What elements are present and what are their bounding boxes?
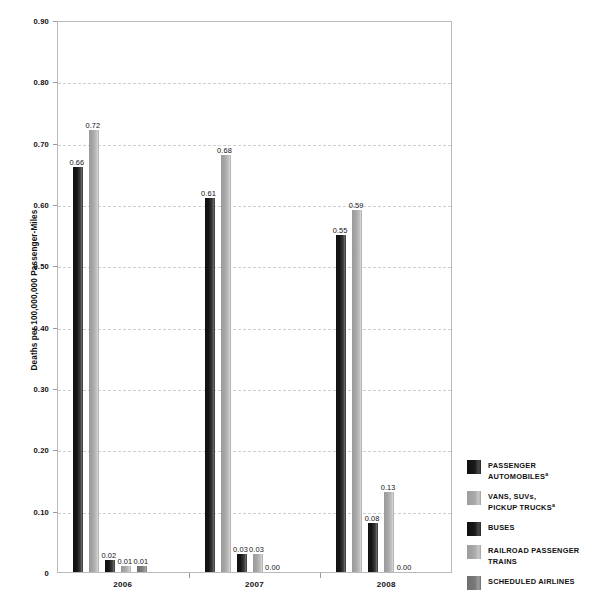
bar	[336, 235, 346, 572]
x-group-label: 2008	[346, 580, 426, 589]
gridline	[58, 83, 451, 84]
legend-item[interactable]: BUSES	[467, 522, 602, 536]
x-group-tick	[320, 573, 321, 578]
y-tick-label: 0.70	[9, 140, 49, 149]
bar	[384, 492, 394, 572]
y-tick-label: 0.10	[9, 508, 49, 517]
bar	[205, 198, 215, 572]
gridline	[58, 206, 451, 207]
x-group-label: 2007	[215, 580, 295, 589]
legend-item[interactable]: PASSENGERAUTOMOBILESa	[467, 460, 602, 482]
legend-label: RAILROAD PASSENGERTRAINS	[488, 545, 579, 567]
bar	[89, 130, 99, 572]
bar	[137, 566, 147, 572]
gridline	[58, 145, 451, 146]
y-tick-label: 0.80	[9, 78, 49, 87]
legend-swatch-icon	[467, 522, 481, 536]
legend-swatch-icon	[467, 576, 481, 590]
bar-value-label: 0.61	[194, 189, 224, 198]
legend-swatch-icon	[467, 491, 481, 505]
y-tick-mark	[53, 205, 57, 206]
y-tick-mark	[53, 450, 57, 451]
y-axis-title: Deaths per 100,000,000 Passenger-Miles	[30, 100, 48, 480]
legend-label: SCHEDULED AIRLINES	[488, 576, 575, 588]
bar	[368, 523, 378, 572]
bar-value-label: 0.03	[242, 545, 272, 554]
y-tick-mark	[53, 82, 57, 83]
legend-label: BUSES	[488, 522, 515, 534]
legend-label: PASSENGERAUTOMOBILESa	[488, 460, 548, 482]
bar-value-label: 0.00	[389, 563, 419, 572]
y-tick-mark	[53, 512, 57, 513]
gridline	[58, 451, 451, 452]
y-tick-label: 0	[9, 569, 49, 578]
bar-value-label: 0.68	[210, 146, 240, 155]
legend-swatch-icon	[467, 460, 481, 474]
bar	[73, 167, 83, 572]
legend: PASSENGERAUTOMOBILESaVANS, SUVs,PICKUP T…	[467, 460, 602, 599]
gridline	[58, 267, 451, 268]
bar	[221, 155, 231, 572]
bar-value-label: 0.59	[341, 201, 371, 210]
legend-item[interactable]: SCHEDULED AIRLINES	[467, 576, 602, 590]
x-group-tick	[189, 573, 190, 578]
y-tick-mark	[53, 389, 57, 390]
y-tick-mark	[53, 266, 57, 267]
legend-swatch-icon	[467, 545, 481, 559]
bar-value-label: 0.00	[258, 563, 288, 572]
y-tick-label: 0.30	[9, 385, 49, 394]
gridline	[58, 390, 451, 391]
gridline	[58, 329, 451, 330]
y-tick-label: 0.60	[9, 201, 49, 210]
bar-value-label: 0.55	[325, 226, 355, 235]
legend-item[interactable]: RAILROAD PASSENGERTRAINS	[467, 545, 602, 567]
y-tick-mark	[53, 21, 57, 22]
x-group-label: 2006	[83, 580, 163, 589]
y-tick-label: 0.20	[9, 446, 49, 455]
y-tick-mark	[53, 144, 57, 145]
bar-value-label: 0.01	[126, 557, 156, 566]
bar	[237, 554, 247, 572]
legend-item[interactable]: VANS, SUVs,PICKUP TRUCKSa	[467, 491, 602, 513]
y-tick-label: 0.40	[9, 324, 49, 333]
bar-value-label: 0.66	[62, 158, 92, 167]
y-tick-mark	[53, 328, 57, 329]
bar-value-label: 0.08	[357, 514, 387, 523]
y-tick-label: 0.50	[9, 262, 49, 271]
legend-label: VANS, SUVs,PICKUP TRUCKSa	[488, 491, 555, 513]
bar	[121, 566, 131, 572]
bar-value-label: 0.72	[78, 121, 108, 130]
y-tick-label: 0.90	[9, 17, 49, 26]
bar-value-label: 0.13	[373, 483, 403, 492]
bar-chart: Deaths per 100,000,000 Passenger-Miles 0…	[0, 0, 602, 602]
